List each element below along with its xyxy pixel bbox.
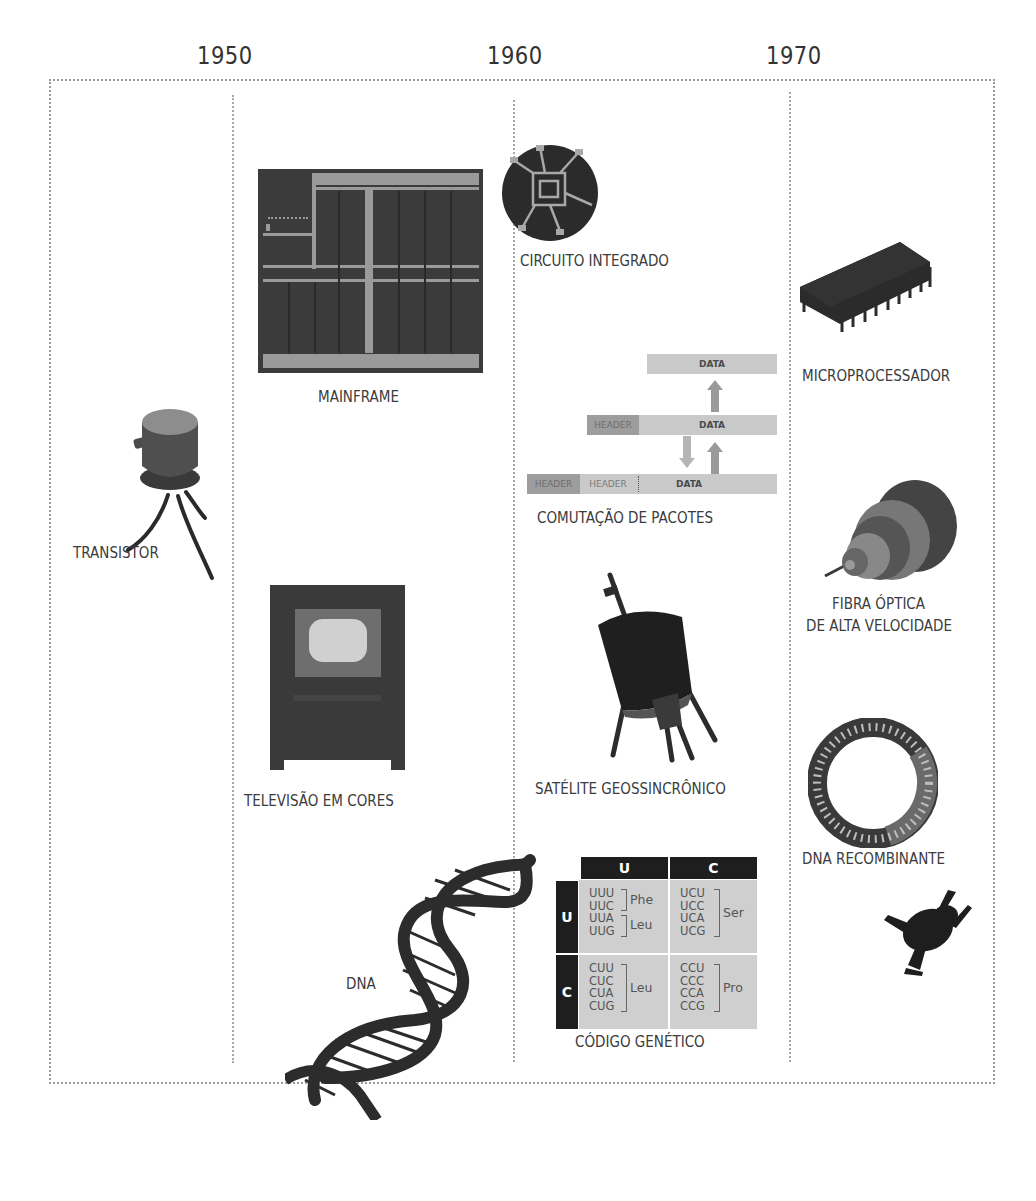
genetic-code-row-header-c: C — [556, 955, 578, 1029]
year-label-1970: 1970 — [766, 42, 822, 70]
codon: UCU — [680, 887, 705, 900]
integrated-circuit-icon — [500, 143, 600, 243]
fiber-optic-label-line2: DE ALTA VELOCIDADE — [806, 617, 952, 635]
genetic-code-cell: UCU UCC UCA UCG Ser — [670, 880, 757, 953]
genetic-code-col-header-u: U — [581, 857, 668, 879]
microchip-icon — [800, 232, 935, 342]
genetic-code-cell: CUU CUC CUA CUG Leu — [579, 955, 668, 1029]
packet-row3-header-outer: HEADER — [527, 474, 580, 494]
year-label-1950: 1950 — [197, 42, 253, 70]
codon: CUU — [589, 962, 614, 975]
year-label-1960: 1960 — [487, 42, 543, 70]
transistor-label: TRANSISTOR — [73, 544, 159, 562]
arrow-up-icon — [711, 388, 719, 412]
satellite-icon — [580, 565, 730, 775]
television-icon — [270, 585, 405, 770]
genetic-code-cell: CCU CCC CCA CCG Pro — [670, 955, 757, 1029]
codon: UCG — [680, 925, 705, 938]
color-tv-label: TELEVISÃO EM CORES — [244, 792, 394, 810]
dna-helix-icon — [285, 840, 545, 1120]
plasmid-ring-icon — [808, 718, 938, 848]
recombinant-dna-label: DNA RECOMBINANTE — [802, 850, 945, 868]
codon: UCA — [680, 912, 705, 925]
amino-acid-label: Pro — [723, 980, 743, 995]
amino-acid-label: Ser — [723, 905, 744, 920]
amino-acid-label: Phe — [630, 892, 653, 907]
codon: UUA — [589, 912, 615, 925]
genetic-code-col-header-c: C — [670, 857, 757, 879]
codon: CUA — [589, 987, 614, 1000]
mainframe-label: MAINFRAME — [318, 388, 399, 406]
frog-icon — [878, 880, 978, 980]
packet-row1-data: DATA — [647, 354, 777, 374]
mainframe-icon — [258, 169, 483, 373]
codon: UUG — [589, 925, 615, 938]
codon: CUG — [589, 1000, 614, 1013]
arrow-down-icon — [683, 436, 691, 458]
genetic-code-cell: UUU UUC UUA UUG Phe Leu — [579, 880, 668, 953]
codon: CCA — [680, 987, 705, 1000]
microprocessor-label: MICROPROCESSADOR — [802, 367, 950, 385]
fiber-optic-label-line1: FIBRA ÓPTICA — [832, 595, 925, 613]
divider-1950 — [232, 95, 234, 1063]
packet-row3-header-inner: HEADER — [580, 474, 636, 494]
integrated-circuit-label: CIRCUITO INTEGRADO — [520, 252, 669, 270]
packet-switching-label: COMUTAÇÃO DE PACOTES — [537, 509, 713, 527]
satellite-label: SATÉLITE GEOSSINCRÔNICO — [535, 780, 726, 798]
divider-1970 — [789, 92, 791, 1062]
packet-row3-data: DATA — [639, 474, 739, 494]
dna-label: DNA — [346, 975, 376, 993]
codon: UUU — [589, 887, 615, 900]
packet-row2-data: DATA — [647, 415, 777, 435]
genetic-code-label: CÓDIGO GENÉTICO — [575, 1033, 705, 1051]
codon: CCG — [680, 1000, 705, 1013]
genetic-code-row-header-u: U — [556, 881, 578, 953]
packet-row2-header: HEADER — [587, 415, 639, 435]
amino-acid-label: Leu — [630, 980, 652, 995]
codon: CCU — [680, 962, 705, 975]
fiber-optic-cable-icon — [820, 478, 960, 588]
genetic-code-table: U C U C UUU UUC UUA UUG Phe Leu UCU UCC … — [556, 857, 786, 1029]
amino-acid-label: Leu — [630, 917, 652, 932]
packet-switching-diagram: DATA HEADER DATA HEADER HEADER DATA — [527, 354, 777, 497]
